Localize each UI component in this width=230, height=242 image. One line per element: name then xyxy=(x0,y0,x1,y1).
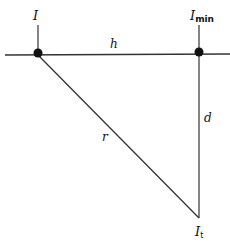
label-d: d xyxy=(204,111,212,125)
right-source-dot xyxy=(195,48,204,57)
triangle-diagram: I Imin h r d It xyxy=(0,0,230,242)
label-Imin: Imin xyxy=(189,8,214,24)
label-r: r xyxy=(102,130,109,144)
left-source-dot xyxy=(34,49,43,58)
diagonal-line-r xyxy=(38,55,199,218)
label-h: h xyxy=(110,37,118,51)
label-It: It xyxy=(194,224,203,240)
label-I: I xyxy=(32,8,39,23)
